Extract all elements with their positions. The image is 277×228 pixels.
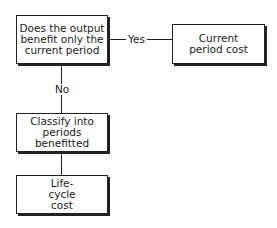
decision-box: Does the output benefit only the current… (16, 15, 108, 64)
classify-box: Classify into periods benefitted (16, 113, 108, 152)
classify-text: Classify into periods benefitted (19, 116, 105, 149)
connector-classify-lifecycle (61, 152, 62, 175)
decision-text: Does the output benefit only the current… (19, 23, 105, 56)
current-period-cost-box: Current period cost (172, 24, 265, 64)
current-period-cost-text: Current period cost (187, 33, 250, 55)
no-label: No (53, 84, 71, 95)
yes-label: Yes (126, 34, 147, 45)
lifecycle-cost-box: Life-cycle cost (16, 175, 108, 214)
lifecycle-cost-text: Life-cycle cost (39, 178, 85, 211)
